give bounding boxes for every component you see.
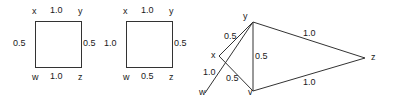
fan-weight-x-v: 0.5 [226,74,239,83]
square-2-weight-left: 1.0 [104,39,117,48]
square-2-node-z: z [169,73,174,82]
fan-node-y: y [243,12,248,21]
square-1-node-x: x [32,7,37,16]
fan-weight-y-v: 0.5 [255,52,268,61]
square-2-outline [127,22,173,68]
fan-node-v: v [248,88,253,97]
square-1-weight-top: 1.0 [50,6,63,15]
figure-canvas: x 1.0 y 0.5 0.5 w 1.0 z x 1.0 y 1.0 0.5 … [0,0,393,102]
fan-node-z: z [371,53,376,62]
square-1-node-y: y [78,7,83,16]
square-2-node-y: y [169,7,174,16]
fan-weight-v-z: 1.0 [303,78,316,87]
square-2-weight-right: 0.5 [174,39,187,48]
square-2-weight-top: 1.0 [141,6,154,15]
square-1-node-z: z [78,73,83,82]
figure-linework [0,0,393,102]
square-1-weight-right: 0.5 [83,39,96,48]
fan-weight-y-z: 1.0 [303,29,316,38]
fan-weight-x-y: 0.5 [224,32,237,41]
square-2-weight-bottom: 0.5 [141,72,154,81]
square-1-weight-bottom: 1.0 [50,72,63,81]
square-2-node-w: w [123,73,130,82]
fan-node-w: w [199,88,206,97]
fan-node-x: x [211,51,216,60]
square-1-node-w: w [32,73,39,82]
square-1-weight-left: 0.5 [13,39,26,48]
square-2-node-x: x [123,7,128,16]
square-1-outline [36,22,82,68]
fan-weight-w-v: 1.0 [203,68,216,77]
